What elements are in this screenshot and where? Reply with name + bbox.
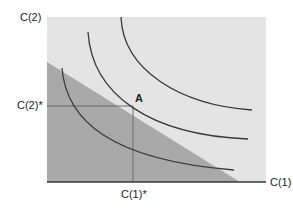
diagram-canvas xyxy=(0,0,293,209)
c1-star-label: C(1)* xyxy=(121,188,147,200)
point-a-label: A xyxy=(135,92,143,104)
y-axis-label: C(2) xyxy=(20,11,41,23)
c2-star-label: C(2)* xyxy=(17,99,43,111)
x-axis-label: C(1) xyxy=(270,176,291,188)
